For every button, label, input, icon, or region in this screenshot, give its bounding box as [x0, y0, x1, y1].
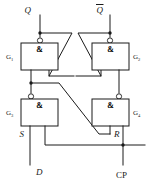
terminal-label-qbar-group: Q — [97, 5, 104, 16]
gate-label-g4: G4 — [133, 109, 141, 118]
inversion-bubble-g4 — [116, 94, 121, 99]
terminal-label-s: S — [20, 129, 25, 139]
terminal-label-q: Q — [25, 5, 32, 15]
gate-symbol-g4: & — [107, 101, 114, 110]
logic-circuit-diagram: & G1 & G2 & G3 & G4 Q Q S R D CP — [0, 0, 153, 184]
terminal-label-qbar: Q — [97, 5, 104, 15]
terminal-label-r: R — [113, 129, 120, 139]
gate-label-g1: G1 — [6, 53, 13, 62]
inversion-bubble-g1 — [37, 38, 42, 43]
gate-symbol-g1: & — [36, 45, 43, 54]
gate-label-g2: G2 — [133, 53, 140, 62]
gate-symbol-g2: & — [107, 45, 114, 54]
inversion-bubble-g3 — [28, 94, 33, 99]
terminal-label-cp: CP — [116, 170, 127, 180]
gate-label-g3: G3 — [6, 109, 14, 118]
gate-symbol-g3: & — [36, 101, 43, 110]
terminal-label-d: D — [35, 167, 43, 177]
inversion-bubble-g2 — [107, 38, 112, 43]
